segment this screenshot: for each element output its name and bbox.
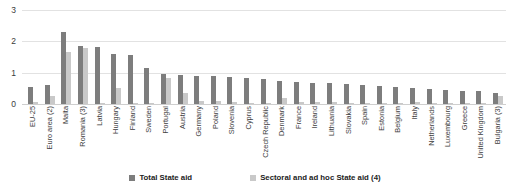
bar-total-state-aid[interactable] bbox=[427, 89, 432, 104]
bar-group[interactable] bbox=[440, 10, 457, 104]
bar-sectoral-state-aid[interactable] bbox=[332, 102, 337, 104]
bar-sectoral-state-aid[interactable] bbox=[432, 103, 437, 104]
bar-sectoral-state-aid[interactable] bbox=[149, 103, 154, 104]
bar-group[interactable] bbox=[91, 10, 108, 104]
bar-group[interactable] bbox=[456, 10, 473, 104]
bar-group[interactable] bbox=[141, 10, 158, 104]
bar-group[interactable] bbox=[390, 10, 407, 104]
bar-sectoral-state-aid[interactable] bbox=[50, 96, 55, 104]
bar-group[interactable] bbox=[274, 10, 291, 104]
bar-sectoral-state-aid[interactable] bbox=[315, 102, 320, 104]
x-axis-category: Germany bbox=[191, 106, 208, 160]
bar-sectoral-state-aid[interactable] bbox=[481, 103, 486, 104]
bar-sectoral-state-aid[interactable] bbox=[382, 103, 387, 104]
bar-total-state-aid[interactable] bbox=[128, 55, 133, 104]
bar-total-state-aid[interactable] bbox=[227, 77, 232, 104]
bar-group[interactable] bbox=[340, 10, 357, 104]
x-axis-label: Slovenia bbox=[229, 106, 236, 134]
bar-sectoral-state-aid[interactable] bbox=[365, 103, 370, 104]
x-axis-category: Latvia bbox=[91, 106, 108, 160]
bar-sectoral-state-aid[interactable] bbox=[133, 103, 138, 104]
bar-group[interactable] bbox=[357, 10, 374, 104]
bars-container bbox=[22, 10, 506, 104]
bar-group[interactable] bbox=[307, 10, 324, 104]
x-axis-label: Finland bbox=[129, 106, 136, 130]
bar-group[interactable] bbox=[241, 10, 258, 104]
bar-sectoral-state-aid[interactable] bbox=[216, 101, 221, 104]
x-axis-category: Italy bbox=[407, 106, 424, 160]
bar-sectoral-state-aid[interactable] bbox=[498, 96, 503, 104]
bar-group[interactable] bbox=[108, 10, 125, 104]
bar-sectoral-state-aid[interactable] bbox=[448, 103, 453, 104]
bar-total-state-aid[interactable] bbox=[95, 47, 100, 104]
bar-total-state-aid[interactable] bbox=[443, 90, 448, 104]
bar-group[interactable] bbox=[25, 10, 42, 104]
x-axis-label: Euro area (2) bbox=[46, 106, 53, 150]
bar-group[interactable] bbox=[208, 10, 225, 104]
bar-group[interactable] bbox=[407, 10, 424, 104]
bar-total-state-aid[interactable] bbox=[460, 91, 465, 104]
bar-group[interactable] bbox=[473, 10, 490, 104]
bar-group[interactable] bbox=[158, 10, 175, 104]
bar-group[interactable] bbox=[224, 10, 241, 104]
x-axis-label: Slovakia bbox=[345, 106, 352, 134]
bar-group[interactable] bbox=[174, 10, 191, 104]
x-axis-label: Lithuania bbox=[328, 106, 335, 136]
legend-swatch-icon-sectoral bbox=[250, 175, 256, 181]
bar-group[interactable] bbox=[75, 10, 92, 104]
bar-total-state-aid[interactable] bbox=[344, 84, 349, 104]
bar-total-state-aid[interactable] bbox=[310, 83, 315, 104]
bar-sectoral-state-aid[interactable] bbox=[465, 103, 470, 104]
bar-total-state-aid[interactable] bbox=[377, 86, 382, 104]
x-axis-label: Czech Republic bbox=[262, 106, 269, 158]
x-axis-category: Slovakia bbox=[340, 106, 357, 160]
bar-sectoral-state-aid[interactable] bbox=[100, 103, 105, 104]
bar-group[interactable] bbox=[490, 10, 507, 104]
x-axis-label: Sweden bbox=[146, 106, 153, 133]
bar-total-state-aid[interactable] bbox=[360, 85, 365, 104]
legend-label-sectoral: Sectoral and ad hoc State aid (4) bbox=[260, 173, 380, 182]
bar-sectoral-state-aid[interactable] bbox=[282, 98, 287, 104]
bar-total-state-aid[interactable] bbox=[28, 87, 33, 104]
bar-group[interactable] bbox=[257, 10, 274, 104]
legend-swatch-icon-total bbox=[129, 175, 135, 181]
bar-sectoral-state-aid[interactable] bbox=[349, 103, 354, 104]
x-axis-category: Estonia bbox=[373, 106, 390, 160]
y-axis-tick-0: 0 bbox=[0, 100, 16, 108]
bar-sectoral-state-aid[interactable] bbox=[183, 93, 188, 104]
bar-sectoral-state-aid[interactable] bbox=[33, 102, 38, 104]
bar-group[interactable] bbox=[42, 10, 59, 104]
bar-total-state-aid[interactable] bbox=[393, 87, 398, 104]
x-axis-category: Cyprus bbox=[241, 106, 258, 160]
bar-total-state-aid[interactable] bbox=[211, 76, 216, 104]
bar-sectoral-state-aid[interactable] bbox=[66, 52, 71, 104]
bar-sectoral-state-aid[interactable] bbox=[415, 102, 420, 105]
bar-group[interactable] bbox=[423, 10, 440, 104]
bar-group[interactable] bbox=[58, 10, 75, 104]
bar-sectoral-state-aid[interactable] bbox=[266, 103, 271, 104]
bar-total-state-aid[interactable] bbox=[194, 76, 199, 104]
bar-total-state-aid[interactable] bbox=[261, 79, 266, 104]
bar-total-state-aid[interactable] bbox=[144, 68, 149, 104]
x-axis-category: Ireland bbox=[307, 106, 324, 160]
bar-total-state-aid[interactable] bbox=[294, 82, 299, 104]
bar-sectoral-state-aid[interactable] bbox=[199, 101, 204, 104]
bar-total-state-aid[interactable] bbox=[327, 83, 332, 104]
x-axis-category: Lithuania bbox=[324, 106, 341, 160]
bar-sectoral-state-aid[interactable] bbox=[398, 103, 403, 104]
bar-sectoral-state-aid[interactable] bbox=[232, 102, 237, 104]
bar-group[interactable] bbox=[125, 10, 142, 104]
bar-group[interactable] bbox=[191, 10, 208, 104]
bar-sectoral-state-aid[interactable] bbox=[116, 88, 121, 104]
bar-sectoral-state-aid[interactable] bbox=[166, 78, 171, 104]
bar-sectoral-state-aid[interactable] bbox=[249, 103, 254, 104]
bar-group[interactable] bbox=[373, 10, 390, 104]
x-axis-label: Spain bbox=[361, 106, 368, 125]
bar-total-state-aid[interactable] bbox=[244, 78, 249, 104]
x-axis-category: Czech Republic bbox=[257, 106, 274, 160]
bar-group[interactable] bbox=[324, 10, 341, 104]
x-axis-label: Cyprus bbox=[245, 106, 252, 129]
bar-group[interactable] bbox=[291, 10, 308, 104]
bar-sectoral-state-aid[interactable] bbox=[83, 48, 88, 104]
bar-sectoral-state-aid[interactable] bbox=[299, 102, 304, 104]
